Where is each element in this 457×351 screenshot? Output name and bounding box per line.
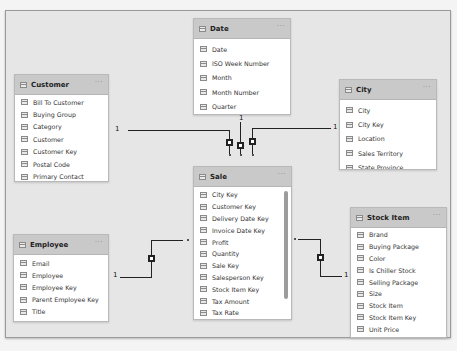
- column-label: ISO Week Number: [212, 60, 269, 67]
- table-header[interactable]: Sale ···: [194, 167, 291, 187]
- scrollbar[interactable]: [284, 191, 288, 299]
- column-item[interactable]: Location: [340, 132, 436, 146]
- column-item[interactable]: City Key: [194, 189, 291, 201]
- table-header[interactable]: City ···: [340, 80, 436, 100]
- column-icon: [200, 215, 207, 221]
- column-label: Tax Amount: [212, 298, 249, 305]
- column-item[interactable]: Stock Item: [351, 300, 446, 312]
- column-item[interactable]: Profit: [194, 236, 291, 248]
- column-item[interactable]: Sale Key: [194, 260, 291, 272]
- column-icon: [200, 298, 207, 304]
- column-item[interactable]: Tax Rate: [194, 307, 291, 319]
- relationship-line-employee-sale[interactable]: [120, 277, 151, 278]
- more-options-icon[interactable]: ···: [95, 238, 103, 246]
- column-item[interactable]: Is Chiller Stock: [351, 264, 446, 276]
- column-label: Stock Item Key: [212, 286, 259, 293]
- column-item[interactable]: City Key: [340, 117, 436, 131]
- more-options-icon[interactable]: ···: [95, 78, 103, 86]
- column-item[interactable]: Title: [14, 306, 108, 318]
- relationship-line-segment: [320, 276, 342, 277]
- column-label: Customer: [33, 136, 64, 143]
- table-customer[interactable]: Customer ··· Bill To Customer Buying Gro…: [14, 74, 109, 182]
- column-item[interactable]: Buying Group: [15, 108, 108, 120]
- column-item[interactable]: Buying Package: [351, 241, 446, 253]
- column-label: City: [358, 107, 370, 114]
- column-icon: [357, 244, 364, 250]
- cardinality-one-employee: 1: [113, 271, 117, 279]
- table-name: Customer: [31, 81, 69, 89]
- filter-direction-icon: [226, 139, 233, 146]
- column-item[interactable]: Invoice Date Key: [194, 224, 291, 236]
- column-item[interactable]: Tax Amount: [194, 295, 291, 307]
- column-icon: [200, 286, 207, 292]
- table-stock-item[interactable]: Stock Item ··· Brand Buying Package Colo…: [350, 207, 447, 338]
- column-item[interactable]: Year: [194, 114, 290, 115]
- column-icon: [200, 263, 207, 269]
- relationship-line-customer-sale[interactable]: [128, 130, 230, 131]
- column-item[interactable]: Parent Employee Key: [14, 294, 108, 306]
- column-item[interactable]: Stock Item Key: [351, 312, 446, 324]
- column-item[interactable]: Customer Key: [15, 146, 108, 158]
- column-icon: [200, 89, 207, 95]
- column-item[interactable]: Category: [15, 121, 108, 133]
- table-header[interactable]: Stock Item ···: [351, 208, 446, 228]
- column-item[interactable]: Brand: [351, 229, 446, 241]
- table-sale[interactable]: Sale ··· City Key Customer Key Delivery …: [193, 166, 292, 320]
- column-item[interactable]: Month Number: [194, 85, 290, 99]
- column-icon: [20, 272, 27, 278]
- column-item[interactable]: Quarter: [194, 100, 290, 114]
- column-item[interactable]: Quantity: [194, 248, 291, 260]
- column-item[interactable]: Bill To Customer: [15, 96, 108, 108]
- more-options-icon[interactable]: ···: [278, 170, 286, 178]
- relationship-line-city-sale[interactable]: [252, 128, 331, 129]
- column-item[interactable]: Employee Key: [14, 281, 108, 293]
- column-item[interactable]: Sales Territory: [340, 146, 436, 160]
- column-item[interactable]: Date: [194, 42, 290, 56]
- more-options-icon[interactable]: ···: [423, 83, 431, 91]
- cardinality-many-dot: [187, 239, 189, 241]
- table-employee[interactable]: Employee ··· Email Employee Employee Key…: [13, 234, 109, 322]
- column-item[interactable]: ISO Week Number: [194, 56, 290, 70]
- column-icon: [200, 61, 207, 67]
- table-icon: [356, 215, 363, 221]
- relationship-line-stockitem-sale[interactable]: [298, 239, 320, 240]
- column-item[interactable]: Size: [351, 288, 446, 300]
- relationship-line-date-sale[interactable]: [240, 122, 241, 154]
- column-item[interactable]: Primary Contact: [15, 170, 108, 182]
- column-item[interactable]: Salesperson Key: [194, 272, 291, 284]
- more-options-icon[interactable]: ···: [433, 211, 441, 219]
- column-label: State Province: [358, 164, 403, 170]
- column-label: Salesperson Key: [212, 274, 264, 281]
- column-icon: [21, 136, 28, 142]
- column-item[interactable]: State Province: [340, 161, 436, 170]
- column-icon: [200, 239, 207, 245]
- column-icon: [346, 107, 353, 113]
- table-city[interactable]: City ··· City City Key Location Sales Te…: [339, 79, 437, 170]
- column-icon: [200, 104, 207, 110]
- column-item[interactable]: Customer Key: [194, 201, 291, 213]
- column-icon: [200, 274, 207, 280]
- column-item[interactable]: Stock Item Key: [194, 283, 291, 295]
- table-header[interactable]: Date ···: [194, 19, 290, 39]
- more-options-icon[interactable]: ···: [277, 22, 285, 30]
- column-item[interactable]: Selling Package: [351, 276, 446, 288]
- column-item[interactable]: Delivery Date Key: [194, 213, 291, 225]
- table-header[interactable]: Employee ···: [14, 235, 108, 255]
- table-header[interactable]: Customer ···: [15, 75, 108, 95]
- column-icon: [346, 165, 353, 170]
- column-label: Stock Item Key: [369, 314, 416, 321]
- column-label: Employee Key: [32, 284, 77, 291]
- column-item[interactable]: Month: [194, 71, 290, 85]
- column-item[interactable]: Customer: [15, 133, 108, 145]
- column-item[interactable]: Unit Price: [351, 323, 446, 335]
- column-label: Location: [358, 135, 385, 142]
- column-item[interactable]: Color: [351, 253, 446, 265]
- relationship-line-segment: [151, 240, 183, 241]
- table-date[interactable]: Date ··· Date ISO Week Number Month Mont…: [193, 18, 291, 115]
- column-item[interactable]: Email: [14, 257, 108, 269]
- column-item[interactable]: Postal Code: [15, 158, 108, 170]
- column-label: Brand: [369, 231, 388, 238]
- column-item[interactable]: City: [340, 103, 436, 117]
- column-icon: [200, 251, 207, 257]
- column-item[interactable]: Employee: [14, 269, 108, 281]
